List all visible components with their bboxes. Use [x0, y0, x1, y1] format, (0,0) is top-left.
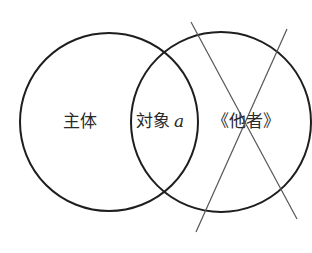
- other-label: 《他者》: [212, 111, 280, 131]
- object-a-var: a: [174, 111, 184, 131]
- subject-circle: [20, 33, 198, 211]
- object-a-label: 対象a: [136, 111, 184, 131]
- object-a-prefix: 対象: [136, 111, 170, 131]
- subject-label: 主体: [63, 111, 97, 131]
- venn-diagram: 主体 対象a 《他者》: [0, 0, 312, 253]
